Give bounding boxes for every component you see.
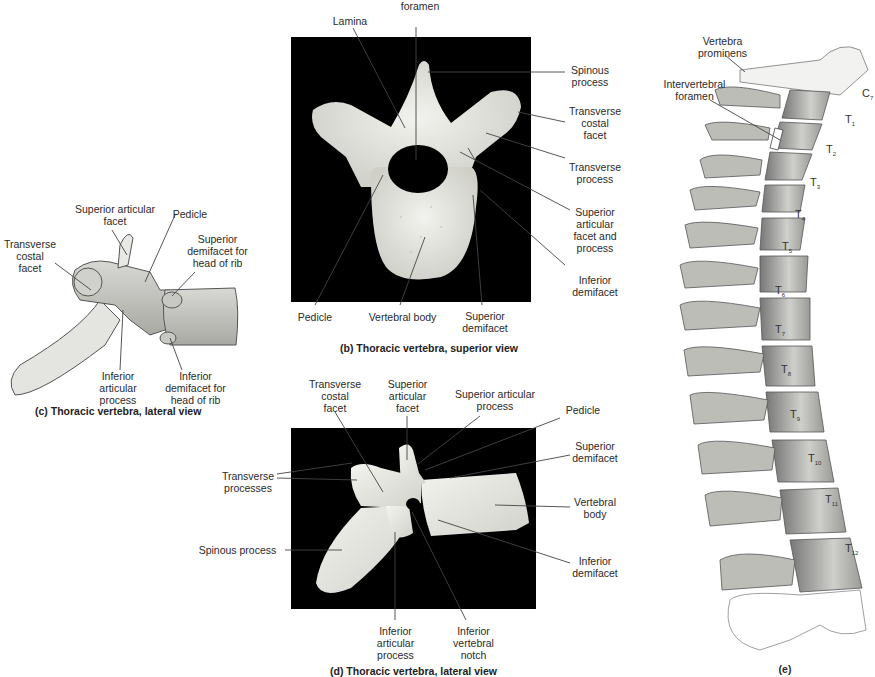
level-letter: T — [845, 113, 852, 125]
label-transverse-process-b: Transverse process — [560, 161, 630, 185]
label-inferior-demifacet-d: Inferior demifacet — [560, 555, 630, 579]
level-letter: T — [826, 143, 833, 155]
caption-panel-c: (c) Thoracic vertebra, lateral view — [35, 405, 201, 417]
label-superior-demifacet-b: Superior demifacet — [455, 310, 515, 334]
label-inferior-vertebral-notch: Inferior vertebral notch — [446, 625, 501, 661]
level-number: 9 — [797, 416, 800, 422]
level-c7: C7 — [862, 87, 873, 101]
level-letter: C — [862, 87, 870, 99]
label-vertebral-foramen: foramen — [390, 0, 450, 12]
level-letter: T — [795, 208, 802, 220]
label-superior-articular-process-d: Superior articular process — [445, 388, 545, 412]
caption-panel-b: (b) Thoracic vertebra, superior view — [340, 342, 518, 354]
level-number: 7 — [870, 95, 873, 101]
label-transverse-processes: Transverse processes — [213, 470, 283, 494]
level-letter: T — [775, 284, 782, 296]
level-number: 6 — [782, 292, 785, 298]
level-t6: T6 — [775, 284, 785, 298]
label-spinous-process-d: Spinous process — [190, 544, 285, 556]
level-t1: T1 — [845, 113, 855, 127]
label-superior-articular-facet-c: Superior articular facet — [65, 203, 165, 227]
level-number: 8 — [788, 371, 791, 377]
level-t4: T4 — [795, 208, 805, 222]
label-vertebral-body-d: Vertebral body — [565, 496, 625, 520]
level-letter: T — [790, 408, 797, 420]
label-inferior-demifacet-c: Inferior demifacet for head of rib — [158, 370, 233, 406]
level-letter: T — [808, 452, 815, 464]
label-vertebral-body-b: Vertebral body — [355, 311, 450, 323]
level-number: 5 — [789, 248, 792, 254]
label-inferior-demifacet-b: Inferior demifacet — [560, 274, 630, 298]
level-number: 11 — [832, 501, 838, 507]
level-number: 12 — [852, 550, 859, 556]
level-number: 10 — [815, 460, 822, 466]
level-letter: T — [845, 542, 852, 554]
label-transverse-costal-facet-d: Transverse costal facet — [305, 378, 365, 414]
level-number: 3 — [817, 184, 820, 190]
level-t11: T11 — [825, 493, 838, 507]
label-lamina: Lamina — [325, 15, 375, 27]
label-intervertebral-foramen: Intervertebral foramen — [652, 78, 737, 102]
level-letter: T — [810, 176, 817, 188]
level-t9: T9 — [790, 408, 800, 422]
level-t3: T3 — [810, 176, 820, 190]
level-t10: T10 — [808, 452, 821, 466]
label-vertebra-prominens: Vertebra prominens — [685, 35, 760, 59]
caption-panel-d: (d) Thoracic vertebra, lateral view — [330, 665, 497, 677]
label-superior-demifacet-d: Superior demifacet — [560, 440, 630, 464]
level-number: 2 — [833, 151, 836, 157]
label-spinous-process-b: Spinous process — [560, 64, 620, 88]
level-number: 1 — [852, 121, 855, 127]
label-superior-demifacet-c: Superior demifacet for head of rib — [180, 233, 255, 269]
label-pedicle-b: Pedicle — [290, 311, 340, 323]
label-transverse-costal-facet-b: Transverse costal facet — [560, 105, 630, 141]
level-t8: T8 — [781, 363, 791, 377]
level-t5: T5 — [782, 240, 792, 254]
level-letter: T — [825, 493, 832, 505]
label-superior-articular-facet-process: Superior articular facet and process — [560, 206, 630, 254]
label-pedicle-d: Pedicle — [558, 404, 608, 416]
level-t12: T12 — [845, 542, 858, 556]
label-pedicle-c: Pedicle — [165, 208, 215, 220]
level-number: 4 — [802, 216, 805, 222]
label-transverse-costal-facet-c: Transverse costal facet — [0, 238, 60, 274]
caption-panel-e: (e) — [770, 663, 800, 675]
label-inferior-articular-process-d: Inferior articular process — [368, 625, 423, 661]
label-superior-articular-facet-d: Superior articular facet — [380, 378, 435, 414]
leader-lines — [0, 0, 875, 677]
level-t2: T2 — [826, 143, 836, 157]
level-number: 7 — [782, 331, 785, 337]
level-t7: T7 — [775, 323, 785, 337]
label-inferior-articular-process-c: Inferior articular process — [88, 370, 148, 406]
level-letter: T — [781, 363, 788, 375]
level-letter: T — [782, 240, 789, 252]
level-letter: T — [775, 323, 782, 335]
